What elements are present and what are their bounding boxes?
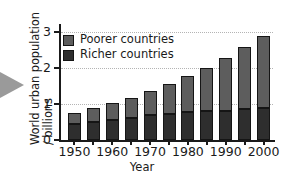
legend-item-richer: Richer countries bbox=[63, 48, 188, 62]
x-tick-label: 2000 bbox=[248, 146, 280, 159]
bar-segment-poorer bbox=[68, 113, 81, 124]
legend-item-label: Richer countries bbox=[80, 49, 174, 61]
y-axis-line bbox=[59, 24, 61, 140]
y-tick-label: 1 bbox=[43, 98, 51, 111]
bar-segment-poorer bbox=[181, 76, 194, 113]
bar-segment-richer bbox=[238, 109, 251, 140]
bar-segment-richer bbox=[181, 112, 194, 140]
bar-segment-richer bbox=[219, 111, 232, 140]
bar-1985 bbox=[200, 68, 213, 140]
bar-segment-poorer bbox=[106, 103, 119, 120]
x-tick-label: 1980 bbox=[172, 146, 204, 159]
bar-segment-richer bbox=[125, 118, 138, 140]
chart-legend: Poorer countriesRicher countries bbox=[63, 33, 188, 63]
bar-1995 bbox=[238, 47, 251, 140]
bar-1980 bbox=[181, 76, 194, 140]
bar-segment-poorer bbox=[257, 36, 270, 108]
bar-segment-poorer bbox=[238, 47, 251, 108]
x-axis-title: Year bbox=[0, 160, 284, 174]
y-tick-label: 0 bbox=[43, 134, 51, 147]
bar-segment-richer bbox=[163, 114, 176, 140]
bar-segment-poorer bbox=[219, 58, 232, 111]
bar-segment-poorer bbox=[144, 91, 157, 115]
bar-1960 bbox=[106, 103, 119, 140]
x-tick-mark bbox=[130, 140, 132, 145]
bar-1950 bbox=[68, 113, 81, 140]
x-tick-label: 1990 bbox=[210, 146, 242, 159]
bar-segment-richer bbox=[144, 115, 157, 140]
x-tick-label: 1960 bbox=[96, 146, 128, 159]
chart-figure: World urban population / billions 0123 1… bbox=[0, 0, 284, 178]
legend-item-label: Poorer countries bbox=[80, 34, 174, 46]
x-tick-mark bbox=[206, 140, 208, 145]
x-tick-label: 1970 bbox=[134, 146, 166, 159]
bar-segment-richer bbox=[106, 120, 119, 140]
x-tick-mark bbox=[168, 140, 170, 145]
bar-segment-poorer bbox=[163, 84, 176, 113]
bar-2000 bbox=[257, 36, 270, 140]
bar-segment-richer bbox=[87, 122, 100, 140]
bar-1990 bbox=[219, 58, 232, 141]
bar-segment-poorer bbox=[200, 68, 213, 112]
bar-1970 bbox=[144, 91, 157, 140]
bar-1975 bbox=[163, 84, 176, 140]
x-tick-mark bbox=[92, 140, 94, 145]
bar-1965 bbox=[125, 98, 138, 140]
bar-segment-poorer bbox=[125, 98, 138, 118]
y-tick-mark bbox=[54, 31, 60, 33]
bar-1955 bbox=[87, 108, 100, 140]
y-tick-mark bbox=[54, 67, 60, 69]
y-tick-mark bbox=[54, 139, 60, 141]
bar-segment-richer bbox=[257, 108, 270, 140]
legend-item-poorer: Poorer countries bbox=[63, 33, 188, 47]
y-tick-label: 2 bbox=[43, 62, 51, 75]
bar-segment-richer bbox=[68, 124, 81, 140]
y-tick-mark bbox=[54, 103, 60, 105]
bar-segment-richer bbox=[200, 111, 213, 140]
legend-swatch-icon bbox=[63, 35, 74, 46]
y-tick-label: 3 bbox=[43, 26, 51, 39]
bar-segment-poorer bbox=[87, 108, 100, 122]
legend-swatch-icon bbox=[63, 50, 74, 61]
y-axis-title-line-1: World urban population bbox=[28, 12, 42, 145]
x-tick-mark bbox=[244, 140, 246, 145]
x-tick-label: 1950 bbox=[59, 146, 91, 159]
y-axis-title: World urban population / billions bbox=[17, 0, 45, 150]
